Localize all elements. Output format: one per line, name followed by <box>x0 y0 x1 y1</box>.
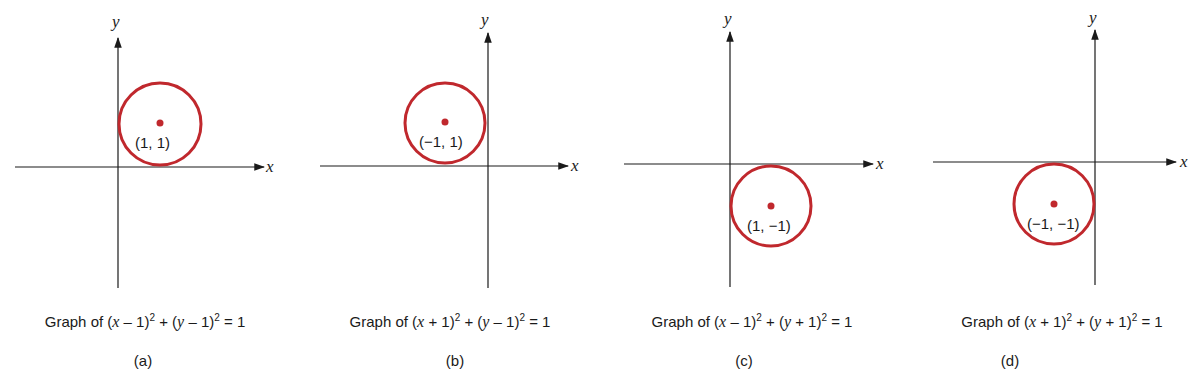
center-point <box>157 120 164 127</box>
y-axis-label: y <box>479 10 489 29</box>
caption-term: – 1) <box>119 313 149 330</box>
caption-plus: + ( <box>155 313 177 330</box>
center-label: (1, −1) <box>747 217 791 234</box>
center-label: (1, 1) <box>135 134 170 151</box>
center-point <box>1051 201 1058 208</box>
caption-term: – 1) <box>184 313 214 330</box>
caption-a: Graph of (x – 1)2 + (y – 1)2 = 1 <box>45 312 245 331</box>
caption-var-y: y <box>1094 313 1101 330</box>
caption-equals: = 1 <box>525 313 550 330</box>
caption-equals: = 1 <box>220 313 245 330</box>
x-axis-label: x <box>265 157 274 176</box>
caption-var-x: x <box>417 313 424 330</box>
center-point <box>768 203 775 210</box>
panel-d-graph: x y (−1, −1) <box>933 8 1188 285</box>
caption-plus: + ( <box>460 313 482 330</box>
sublabel-d: (d) <box>1001 352 1019 369</box>
center-label: (−1, 1) <box>419 133 463 150</box>
caption-equals: = 1 <box>827 313 852 330</box>
panel-c-graph: x y (1, −1) <box>624 9 884 287</box>
y-axis-label: y <box>110 12 120 31</box>
x-axis-label: x <box>1179 152 1188 171</box>
caption-term: + 1) <box>424 313 454 330</box>
y-axis-label: y <box>1087 8 1097 27</box>
panel-a-graph: x y (1, 1) <box>15 12 274 288</box>
caption-term: – 1) <box>726 313 756 330</box>
caption-var-x: x <box>1029 313 1036 330</box>
center-point <box>442 119 449 126</box>
caption-d: Graph of (x + 1)2 + (y + 1)2 = 1 <box>961 312 1162 331</box>
caption-prefix: Graph of <box>652 313 715 330</box>
caption-prefix: Graph of <box>961 313 1024 330</box>
caption-prefix: Graph of <box>45 313 108 330</box>
panel-b-graph: x y (−1, 1) <box>320 10 579 288</box>
caption-c: Graph of (x – 1)2 + (y + 1)2 = 1 <box>652 312 853 331</box>
caption-b: Graph of (x + 1)2 + (y – 1)2 = 1 <box>350 312 551 331</box>
x-axis-label: x <box>570 156 579 175</box>
caption-var-x: x <box>719 313 726 330</box>
caption-term: + 1) <box>1101 313 1131 330</box>
sublabel-c: (c) <box>735 352 753 369</box>
sublabel-a: (a) <box>134 352 152 369</box>
x-axis-label: x <box>875 154 884 173</box>
caption-plus: + ( <box>1072 313 1094 330</box>
caption-term: – 1) <box>489 313 519 330</box>
caption-term: + 1) <box>791 313 821 330</box>
caption-prefix: Graph of <box>350 313 413 330</box>
caption-equals: = 1 <box>1137 313 1162 330</box>
y-axis-label: y <box>722 9 732 28</box>
caption-plus: + ( <box>762 313 784 330</box>
caption-term: + 1) <box>1036 313 1066 330</box>
center-label: (−1, −1) <box>1027 215 1080 232</box>
caption-var-x: x <box>112 313 119 330</box>
caption-var-y: y <box>482 313 489 330</box>
sublabel-b: (b) <box>446 352 464 369</box>
